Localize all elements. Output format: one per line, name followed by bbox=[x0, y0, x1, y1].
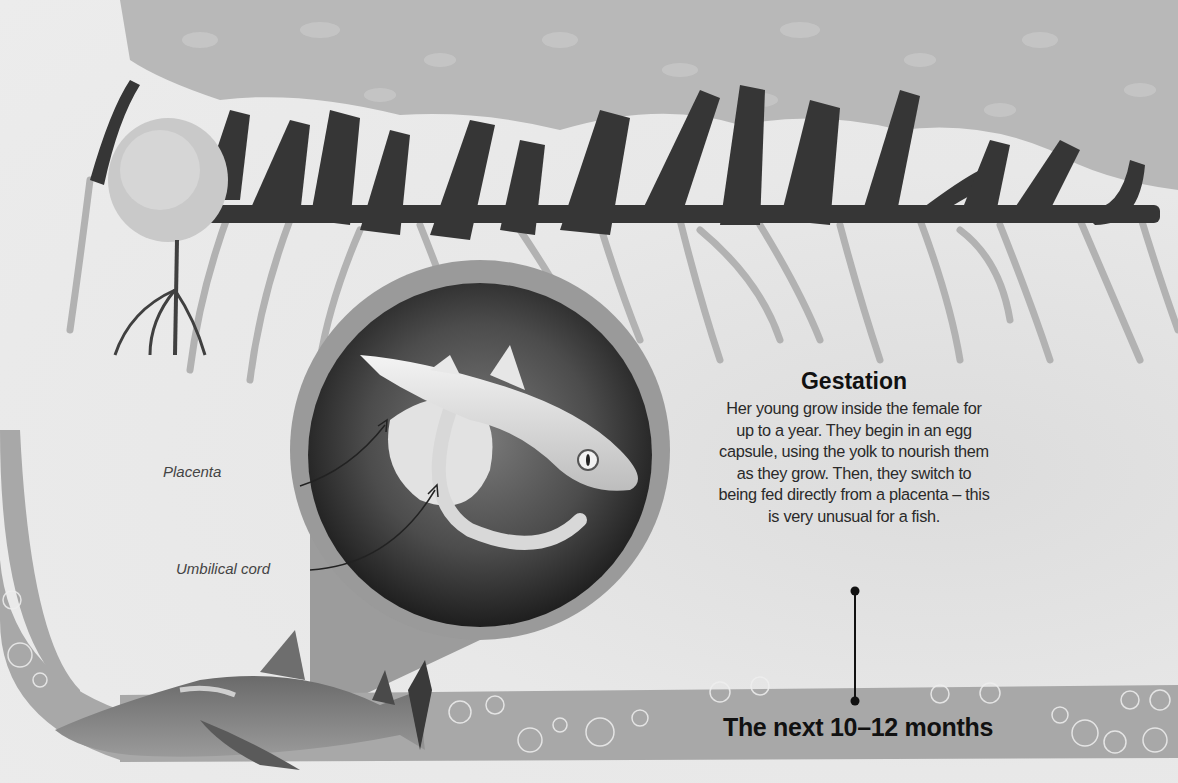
umbilical-cord-label: Umbilical cord bbox=[176, 560, 270, 577]
gestation-info: Gestation Her young grow inside the fema… bbox=[718, 368, 990, 528]
illustration-scene bbox=[0, 0, 1178, 783]
placenta-label: Placenta bbox=[163, 463, 221, 480]
section-body: Her young grow inside the female for up … bbox=[718, 398, 990, 528]
section-heading: Gestation bbox=[718, 368, 990, 395]
mangrove-sapling bbox=[108, 118, 228, 355]
infographic-page: Placenta Umbilical cord Gestation Her yo… bbox=[0, 0, 1178, 783]
embryo-inset bbox=[290, 260, 670, 640]
timeline-label: The next 10–12 months bbox=[706, 713, 1010, 742]
timeline-connector bbox=[851, 587, 860, 706]
